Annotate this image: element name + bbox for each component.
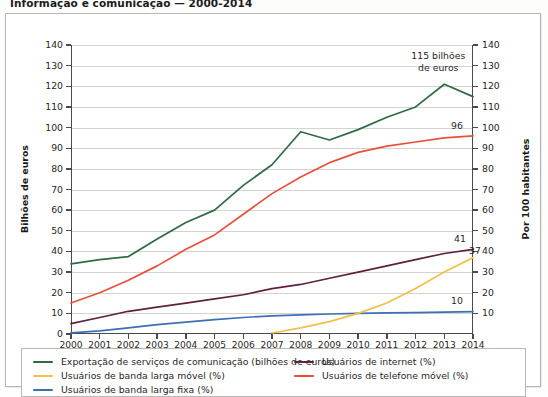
legend-color-swatch [33,361,53,363]
y-axis-right-label: 130 [482,60,500,71]
legend-column-right: Usuários de internet (%)Usuários de tele… [294,355,469,383]
series-line [71,136,473,303]
y-axis-left-label: 100 [45,122,63,133]
legend-item-label: Usuários de banda larga fixa (%) [61,384,213,395]
y-axis-left-label: 50 [51,225,63,236]
x-tick [185,334,186,339]
page-title: Informação e comunicação — 2000-2014 [10,0,252,9]
y-axis-left-label: 20 [51,287,63,298]
y-axis-left-label: 130 [45,60,63,71]
annotation-mobile-phone: 96 [451,120,463,131]
x-tick [386,334,387,339]
y-axis-left-label: 0 [57,328,63,339]
y-axis-right-label: 50 [482,225,494,236]
y-axis-right-label: 140 [482,39,500,50]
x-tick [300,334,301,339]
y-axis-right-label: 10 [482,307,494,318]
y-axis-right-label: 80 [482,163,494,174]
annotation-mobile-broadband: 37 [469,245,481,256]
x-tick [415,334,416,339]
y-tick-right [473,313,478,314]
legend-item[interactable]: Usuários de internet (%) [294,355,469,369]
y-axis-left-label: 80 [51,163,63,174]
x-tick [472,334,473,339]
x-tick [70,334,71,339]
y-tick-right [473,44,478,45]
x-tick [329,334,330,339]
chart-legend: Exportação de serviços de comunicação (b… [21,348,526,397]
y-axis-left-label: 10 [51,307,63,318]
y-axis-left-title: Bilhões de euros [19,145,30,233]
legend-item-label: Usuários de banda larga móvel (%) [61,370,225,381]
y-axis-right-label: 30 [482,266,494,277]
y-tick-right [473,271,478,272]
y-tick-right [473,86,478,87]
y-tick-right [473,168,478,169]
legend-item[interactable]: Exportação de serviços de comunicação (b… [33,355,335,369]
y-axis-right-label: 40 [482,245,494,256]
x-tick [214,334,215,339]
chart-card: Bilhões de euros Por 100 habitantes 0102… [5,13,541,387]
series-lines [71,45,473,334]
annotation-peak-export: 115 bilhões de euros [411,50,465,73]
y-axis-right-label: 70 [482,184,494,195]
legend-column-left: Exportação de serviços de comunicação (b… [33,355,335,397]
x-tick [243,334,244,339]
y-axis-right-label: 100 [482,122,500,133]
series-line [71,312,473,333]
y-tick-right [473,65,478,66]
y-axis-right-label: 90 [482,142,494,153]
legend-color-swatch [294,375,314,377]
x-tick [357,334,358,339]
y-tick-right [473,148,478,149]
y-tick-right [473,106,478,107]
y-axis-left-label: 90 [51,142,63,153]
legend-item-label: Usuários de telefone móvel (%) [322,370,469,381]
y-axis-left-label: 140 [45,39,63,50]
y-axis-right-label: 60 [482,204,494,215]
y-tick-right [473,209,478,210]
y-tick-right [473,292,478,293]
legend-color-swatch [33,389,53,391]
x-tick [271,334,272,339]
y-tick-right [473,189,478,190]
y-axis-left-label: 70 [51,184,63,195]
y-axis-left-label: 40 [51,245,63,256]
x-tick [444,334,445,339]
y-axis-right-label: 110 [482,101,500,112]
series-line [71,84,473,264]
x-tick [128,334,129,339]
legend-item[interactable]: Usuários de banda larga fixa (%) [33,383,335,397]
y-axis-left-label: 110 [45,101,63,112]
legend-item[interactable]: Usuários de telefone móvel (%) [294,369,469,383]
y-axis-left-label: 30 [51,266,63,277]
legend-color-swatch [294,361,314,363]
legend-item[interactable]: Usuários de banda larga móvel (%) [33,369,335,383]
y-axis-left-label: 120 [45,80,63,91]
legend-item-label: Usuários de internet (%) [322,356,436,367]
x-tick [99,334,100,339]
y-axis-right-label: 120 [482,80,500,91]
y-axis-left-label: 60 [51,204,63,215]
annotation-fixed-broadband: 10 [451,295,463,306]
annotation-internet: 41 [454,233,466,244]
y-tick-right [473,230,478,231]
y-tick-right [473,127,478,128]
legend-color-swatch [33,375,53,377]
y-axis-right-label: 20 [482,287,494,298]
x-tick [156,334,157,339]
plot-area: 0102030405060708090100110120130140102030… [71,45,473,334]
y-axis-right-title: Por 100 habitantes [520,139,531,240]
